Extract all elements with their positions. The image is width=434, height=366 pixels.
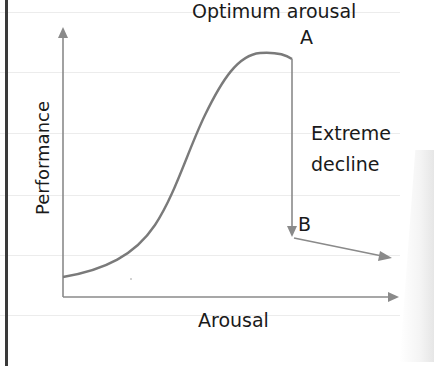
x-axis-arrow-icon bbox=[388, 292, 399, 302]
extreme-decline-label: Extreme decline bbox=[311, 118, 391, 180]
post-b-arrow bbox=[294, 238, 392, 261]
optimum-arousal-label: Optimum arousal bbox=[192, 0, 356, 22]
right-arrow-icon bbox=[378, 251, 392, 261]
stray-dot bbox=[130, 278, 132, 280]
performance-curve bbox=[63, 53, 292, 277]
point-b-label: B bbox=[298, 213, 311, 235]
y-axis-arrow-icon bbox=[58, 27, 68, 38]
point-a-label: A bbox=[300, 26, 313, 48]
x-axis-label: Arousal bbox=[198, 309, 269, 331]
extreme-decline-line2: decline bbox=[311, 149, 391, 180]
down-arrow-icon bbox=[287, 226, 297, 237]
decline-arrow bbox=[287, 59, 297, 237]
y-axis bbox=[58, 27, 68, 297]
extreme-decline-line1: Extreme bbox=[311, 118, 391, 149]
y-axis-label: Performance bbox=[32, 101, 53, 215]
notebook-page: Optimum arousal A Extreme decline B Arou… bbox=[0, 0, 434, 366]
x-axis bbox=[63, 292, 399, 302]
